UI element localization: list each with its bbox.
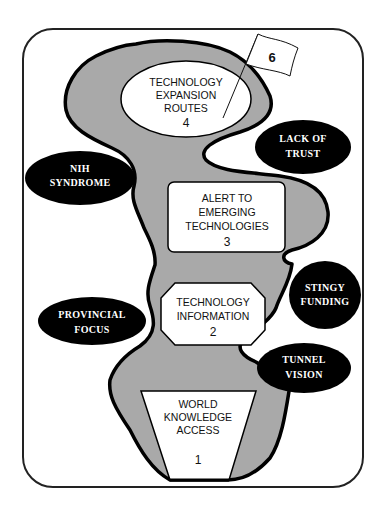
flag-number: 6 xyxy=(268,50,275,65)
obstacle-label-line: SYNDROME xyxy=(50,177,111,188)
obstacle-label-line: TRUST xyxy=(286,148,321,159)
stage-label-line: ALERT TO xyxy=(202,192,253,204)
stage-label-line: TECHNOLOGY xyxy=(149,76,223,88)
stage-label-line: EXPANSION xyxy=(156,89,217,101)
obstacle-tunnel-vision: TUNNEL VISION xyxy=(257,343,351,393)
stage-label-line: WORLD xyxy=(178,398,218,410)
obstacle-label-line: LACK OF xyxy=(279,133,326,144)
obstacle-nih-syndrome: NIH SYNDROME xyxy=(25,151,135,205)
stage-number: 3 xyxy=(224,235,231,249)
stage-label-line: ACCESS xyxy=(176,424,219,436)
stage-alert-to-emerging-technologies: ALERT TO EMERGING TECHNOLOGIES 3 xyxy=(168,182,285,252)
obstacle-label-line: VISION xyxy=(285,369,323,380)
stage-technology-information: TECHNOLOGY INFORMATION 2 xyxy=(161,283,265,345)
obstacle-label-line: NIH xyxy=(70,163,90,174)
obstacle-label-line: FUNDING xyxy=(301,296,350,307)
obstacle-label-line: STINGY xyxy=(305,282,346,293)
obstacle-provincial-focus: PROVINCIAL FOCUS xyxy=(38,297,146,345)
stage-technology-expansion-routes: TECHNOLOGY EXPANSION ROUTES 4 xyxy=(121,61,251,137)
stage-number: 1 xyxy=(195,453,202,467)
stage-label-line: EMERGING xyxy=(198,206,255,218)
obstacle-label-line: FOCUS xyxy=(74,324,110,335)
obstacle-stingy-funding: STINGY FUNDING xyxy=(289,261,361,329)
technology-pathway-diagram: TECHNOLOGY EXPANSION ROUTES 4 6 ALERT TO… xyxy=(0,0,385,517)
stage-label-line: TECHNOLOGIES xyxy=(185,220,268,232)
obstacle-label-line: PROVINCIAL xyxy=(58,309,125,320)
stage-label-line: TECHNOLOGY xyxy=(176,296,250,308)
stage-number: 4 xyxy=(183,116,190,130)
stage-label-line: KNOWLEDGE xyxy=(164,411,232,423)
obstacle-lack-of-trust: LACK OF TRUST xyxy=(255,120,351,174)
stage-label-line: INFORMATION xyxy=(177,310,250,322)
stage-number: 2 xyxy=(210,325,217,339)
obstacle-label-line: TUNNEL xyxy=(282,354,326,365)
stage-label-line: ROUTES xyxy=(164,102,208,114)
